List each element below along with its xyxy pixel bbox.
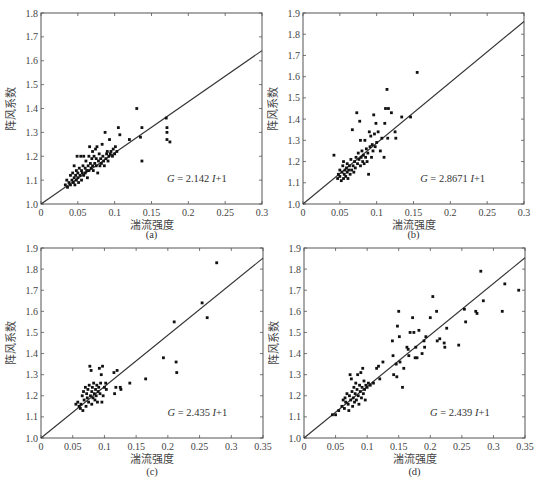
data-point [81,409,84,412]
data-point [409,331,412,334]
y-tick-label: 1.4 [288,114,301,125]
data-point [375,141,378,144]
data-point [377,365,380,368]
panel-caption: (d) [408,466,421,478]
data-point [412,331,415,334]
data-point [117,126,120,129]
data-point [503,282,506,285]
y-tick-label: 1.6 [289,306,302,317]
data-point [443,346,446,349]
data-point [517,289,520,292]
data-point [421,352,424,355]
data-point [90,403,93,406]
y-tick-label: 1.4 [289,348,302,359]
data-point [113,371,116,374]
y-tick-label: 1.7 [26,31,39,42]
data-point [76,172,79,175]
data-point [66,186,69,189]
y-tick-label: 1.1 [289,411,302,422]
data-point [90,167,93,170]
data-point [369,384,372,387]
data-point [387,107,390,110]
y-tick-label: 1.5 [26,79,39,90]
data-point [79,407,82,410]
data-point [94,399,97,402]
data-point [90,157,93,160]
panel-caption: (c) [146,466,158,478]
panel-caption: (b) [407,229,420,241]
data-point [362,392,365,395]
x-tick-label: 0.1 [370,207,383,218]
data-point [343,407,346,410]
data-point [361,386,364,389]
x-tick-label: 0.25 [453,441,471,452]
y-tick-label: 1.9 [288,8,301,19]
data-point [71,179,74,182]
data-point [86,176,89,179]
data-point [349,158,352,161]
data-point [416,356,419,359]
y-tick-label: 1.1 [26,175,39,186]
data-point [349,173,352,176]
fit-line [41,258,263,438]
data-point [100,373,103,376]
data-point [359,139,362,142]
data-point [382,361,385,364]
data-point [398,335,401,338]
y-tick-label: 1.8 [26,264,39,275]
x-tick-label: 0.25 [478,207,496,218]
data-point [355,111,358,114]
data-point [386,137,389,140]
data-point [391,339,394,342]
y-tick-label: 1.3 [26,127,39,138]
scatter-panel-b: 00.050.10.150.20.250.31.01.11.21.31.41.5… [266,8,530,242]
data-point [80,403,83,406]
data-point [85,392,88,395]
data-point [356,373,359,376]
data-point [342,160,345,163]
x-tick-label: 0.2 [444,207,457,218]
data-point [392,354,395,357]
data-point [359,164,362,167]
data-point [395,363,398,366]
x-tick-label: 0.25 [191,441,209,452]
data-point [91,164,94,167]
data-point [93,155,96,158]
data-point [378,377,381,380]
data-point [386,88,389,91]
data-point [356,388,359,391]
x-tick-label: 0 [39,441,44,452]
data-point [98,367,101,370]
data-point [94,388,97,391]
y-tick-label: 1.1 [288,177,301,188]
data-point [87,169,90,172]
data-point [355,399,358,402]
data-point [347,169,350,172]
x-axis-label: 湍流强度 [393,452,437,466]
data-point [104,382,107,385]
data-point [479,270,482,273]
y-tick-label: 1.1 [26,411,39,422]
data-point [394,137,397,140]
data-point [173,320,176,323]
data-point [65,179,68,182]
data-point [162,356,165,359]
data-point [353,160,356,163]
x-tick-label: 0.2 [182,207,195,218]
fit-equation: G = 2.439 I+1 [430,407,490,418]
data-point [73,164,76,167]
data-point [128,382,131,385]
y-tick-label: 1.2 [288,156,301,167]
x-tick-label: 0.05 [327,441,345,452]
data-point [372,113,375,116]
data-point [201,301,204,304]
data-point [338,175,341,178]
data-point [366,152,369,155]
data-point [377,130,380,133]
data-point [74,174,77,177]
data-point [89,162,92,165]
y-tick-label: 1.3 [26,369,39,380]
data-point [89,394,92,397]
data-point [418,329,421,332]
data-point [380,137,383,140]
